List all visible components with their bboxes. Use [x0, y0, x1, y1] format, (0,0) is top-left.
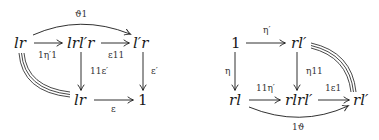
label-eta-prime: η′ — [263, 25, 270, 35]
object-lr-bottom: lr — [74, 91, 87, 109]
label-eta-11: η11 — [306, 66, 323, 76]
object-one: 1 — [231, 34, 241, 52]
right-diagram: 1 rl′ rl rlrl′ rl′ η′ η η11 11η′ 1ε1 1ϑ — [225, 25, 369, 132]
object-rl-prime-top: rl′ — [291, 34, 307, 52]
object-l-prime-r: l′r — [133, 34, 149, 52]
label-eps: ε — [111, 104, 116, 114]
object-lrl-prime-r: lrl′r — [67, 34, 95, 52]
object-lr-top: lr — [14, 34, 27, 52]
left-diagram: lr lrl′r l′r lr 1 1η′1 ε11 ϑ1 11ε′ ε′ ε — [14, 9, 158, 114]
object-rl-prime-right: rl′ — [353, 91, 369, 109]
commutative-diagrams: lr lrl′r l′r lr 1 1η′1 ε11 ϑ1 11ε′ ε′ ε — [0, 0, 379, 140]
label-11-eps-prime: 11ε′ — [90, 66, 108, 76]
label-11-eta-prime: 11η′ — [256, 83, 275, 93]
label-eps-11: ε11 — [108, 50, 124, 60]
label-eps-prime: ε′ — [151, 66, 158, 76]
object-rl: rl — [229, 91, 241, 109]
label-1-eta-prime-1: 1η′1 — [38, 50, 57, 60]
label-eta: η — [225, 66, 230, 76]
label-1-eps-1: 1ε1 — [325, 83, 341, 93]
label-1-theta: 1ϑ — [292, 122, 305, 132]
object-rlrl-prime: rlrl′ — [285, 91, 313, 109]
object-one: 1 — [138, 91, 148, 109]
label-theta-1: ϑ1 — [75, 9, 87, 19]
